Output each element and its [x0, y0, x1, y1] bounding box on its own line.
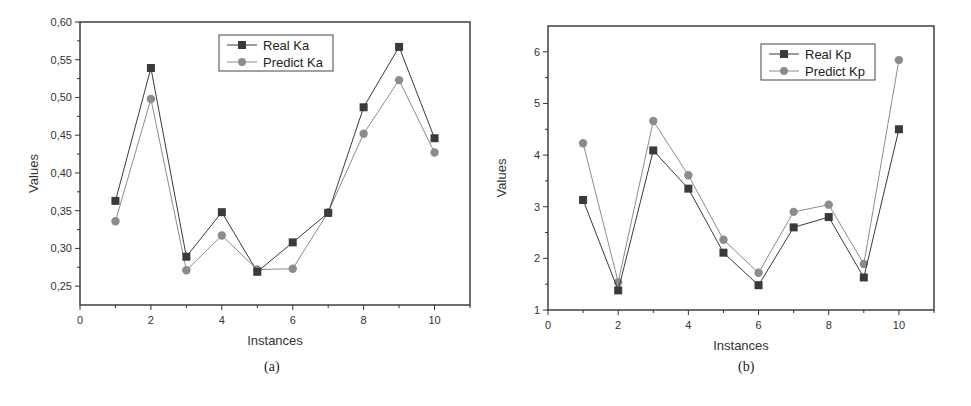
x-tick-label: 2 — [615, 319, 621, 331]
y-tick-label: 6 — [534, 46, 540, 58]
data-point-circle — [395, 76, 403, 84]
y-tick-label: 0,45 — [51, 129, 72, 141]
data-point-square — [289, 238, 297, 246]
y-tick-label: 0,30 — [51, 242, 72, 254]
data-point-circle — [719, 236, 727, 244]
y-axis-label: Values — [26, 154, 41, 193]
legend-circle-marker-icon — [780, 67, 788, 75]
x-tick-label: 4 — [685, 319, 691, 331]
x-tick-label: 6 — [290, 314, 296, 326]
series-line — [583, 60, 899, 282]
y-tick-label: 0,25 — [51, 280, 72, 292]
legend-label: Real Kp — [805, 47, 851, 62]
legend-label: Predict Kp — [805, 64, 865, 79]
data-point-square — [395, 43, 403, 51]
caption-b: (b) — [738, 359, 754, 375]
legend-circle-marker-icon — [238, 58, 246, 66]
y-tick-label: 0,35 — [51, 205, 72, 217]
data-point-circle — [147, 95, 155, 103]
legend-square-marker-icon — [238, 41, 246, 49]
y-tick-label: 0,55 — [51, 54, 72, 66]
data-point-square — [790, 223, 798, 231]
x-axis-label: Instances — [247, 333, 303, 348]
x-axis-label: Instances — [713, 338, 769, 353]
y-tick-label: 1 — [534, 304, 540, 316]
data-point-circle — [895, 56, 903, 64]
data-point-square — [684, 185, 692, 193]
y-tick-label: 0,40 — [51, 167, 72, 179]
data-point-square — [253, 268, 261, 276]
x-tick-label: 8 — [361, 314, 367, 326]
data-point-circle — [218, 231, 226, 239]
y-tick-label: 5 — [534, 97, 540, 109]
data-point-square — [719, 249, 727, 257]
data-point-square — [755, 281, 763, 289]
y-tick-label: 3 — [534, 201, 540, 213]
chart-b-svg: 0246810123456InstancesValuesReal KpPredi… — [480, 0, 971, 406]
data-point-square — [218, 208, 226, 216]
data-point-circle — [359, 129, 367, 137]
y-tick-label: 0,60 — [51, 16, 72, 28]
data-point-circle — [789, 208, 797, 216]
data-point-square — [895, 125, 903, 133]
chart-a-ka-values: 02468100,250,300,350,400,450,500,550,60I… — [0, 0, 480, 406]
data-point-square — [579, 196, 587, 204]
series-line — [115, 80, 434, 270]
data-point-square — [147, 64, 155, 72]
x-tick-label: 10 — [428, 314, 440, 326]
data-point-square — [360, 103, 368, 111]
x-tick-label: 6 — [755, 319, 761, 331]
data-point-circle — [649, 117, 657, 125]
data-point-circle — [430, 148, 438, 156]
x-tick-label: 0 — [77, 314, 83, 326]
legend-label: Real Ka — [263, 38, 310, 53]
data-point-circle — [182, 266, 190, 274]
x-tick-label: 4 — [219, 314, 225, 326]
y-tick-label: 4 — [534, 149, 540, 161]
data-point-square — [860, 273, 868, 281]
data-point-square — [324, 209, 332, 217]
data-point-circle — [825, 200, 833, 208]
legend-square-marker-icon — [780, 50, 788, 58]
data-point-circle — [111, 217, 119, 225]
y-axis-label: Values — [494, 158, 509, 197]
y-tick-label: 2 — [534, 252, 540, 264]
data-point-circle — [579, 139, 587, 147]
data-point-square — [431, 134, 439, 142]
data-point-circle — [754, 269, 762, 277]
chart-b-kp-values: 0246810123456InstancesValuesReal KpPredi… — [480, 0, 971, 406]
x-tick-label: 8 — [826, 319, 832, 331]
data-point-square — [649, 146, 657, 154]
data-point-square — [182, 253, 190, 261]
plot-frame — [548, 26, 934, 310]
y-tick-label: 0,50 — [51, 91, 72, 103]
data-point-square — [614, 286, 622, 294]
x-tick-label: 0 — [545, 319, 551, 331]
data-point-square — [825, 213, 833, 221]
caption-a: (a) — [264, 359, 280, 375]
series-line — [583, 129, 899, 290]
x-tick-label: 2 — [148, 314, 154, 326]
chart-a-svg: 02468100,250,300,350,400,450,500,550,60I… — [0, 0, 480, 406]
x-tick-label: 10 — [893, 319, 905, 331]
legend-label: Predict Ka — [263, 55, 324, 70]
data-point-circle — [289, 265, 297, 273]
data-point-square — [111, 197, 119, 205]
data-point-circle — [684, 171, 692, 179]
